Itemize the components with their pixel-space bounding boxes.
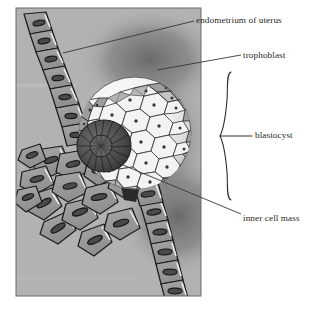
blastocyst-brace bbox=[220, 72, 252, 200]
label-inner-cell-mass: inner cell mass bbox=[243, 214, 300, 223]
label-blastocyst: blastocyst bbox=[255, 131, 293, 140]
implantation-diagram bbox=[0, 0, 323, 316]
label-endometrium-of-uterus: endometrium of uterus bbox=[196, 16, 282, 25]
endometrium-cell bbox=[161, 280, 188, 302]
panel-band-lower bbox=[16, 276, 136, 280]
diagram-canvas bbox=[0, 0, 323, 316]
inner-cell-mass-dome bbox=[77, 120, 131, 172]
figure-root: endometrium of uterus trophoblast blasto… bbox=[0, 0, 323, 316]
panel bbox=[14, 8, 236, 302]
label-trophoblast: trophoblast bbox=[243, 51, 285, 60]
